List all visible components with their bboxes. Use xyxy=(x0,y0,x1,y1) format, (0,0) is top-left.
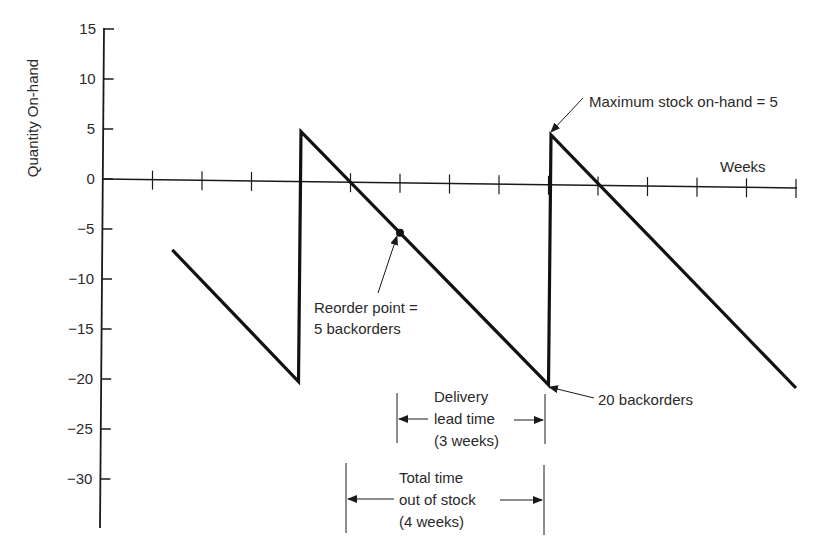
y-tick-label: 5 xyxy=(87,120,95,137)
y-tick-label: 15 xyxy=(79,20,96,37)
x-axis-label: Weeks xyxy=(720,158,766,175)
y-tick-label: −10 xyxy=(69,270,94,287)
y-tick-label: −20 xyxy=(68,370,93,387)
backorders-arrow xyxy=(549,387,594,398)
total-out-of-stock-dimension: Total time out of stock (4 weeks) xyxy=(346,463,544,535)
lead-time-label-line1: Delivery xyxy=(434,388,489,405)
total-time-label-line3: (4 weeks) xyxy=(399,513,464,530)
inventory-line xyxy=(172,132,796,388)
reorder-label-line2: 5 backorders xyxy=(314,320,401,337)
y-axis xyxy=(100,28,104,528)
y-tick-label: −5 xyxy=(77,220,94,237)
delivery-lead-time-dimension: Delivery lead time (3 weeks) xyxy=(397,388,545,449)
y-tick-label: −25 xyxy=(67,420,92,437)
total-time-label-line2: out of stock xyxy=(399,491,476,508)
max-stock-label: Maximum stock on-hand = 5 xyxy=(589,93,778,110)
reorder-point-marker xyxy=(396,229,404,237)
y-axis-label: Quantity On-hand xyxy=(24,59,41,177)
y-tick-label: 10 xyxy=(79,70,96,87)
lead-time-label-line2: lead time xyxy=(434,410,495,427)
lead-time-label-line3: (3 weeks) xyxy=(434,432,499,449)
inventory-sawtooth-chart: Quantity On-hand 151050−5−10−15−20−25−30… xyxy=(0,0,838,560)
y-axis-ticks: 151050−5−10−15−20−25−30 xyxy=(67,20,114,487)
y-tick-label: −15 xyxy=(68,320,93,337)
reorder-leader-arrow xyxy=(378,236,397,293)
y-tick-label: 0 xyxy=(86,170,94,187)
reorder-label-line1: Reorder point = xyxy=(314,299,418,316)
y-tick-label: −30 xyxy=(67,470,92,487)
max-stock-arrow xyxy=(551,98,583,132)
backorders-label: 20 backorders xyxy=(598,391,693,408)
total-time-label-line1: Total time xyxy=(399,469,463,486)
